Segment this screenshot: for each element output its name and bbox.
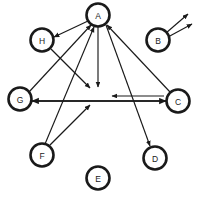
node-b[interactable]: B: [147, 29, 170, 52]
node-c-label: C: [175, 97, 181, 107]
node-f-label: F: [39, 151, 44, 161]
node-h[interactable]: H: [31, 29, 54, 52]
edge-b-out-upper: [166, 14, 188, 33]
node-d-label: D: [152, 154, 158, 164]
node-h-label: H: [39, 36, 45, 46]
node-e[interactable]: E: [87, 167, 110, 190]
edge-a-to-h: [54, 21, 88, 37]
node-g-label: G: [17, 95, 24, 105]
graph-diagram-canvas: ABCDEFGH: [0, 0, 197, 197]
node-b-label: B: [155, 36, 161, 46]
node-e-label: E: [95, 174, 101, 184]
node-d[interactable]: D: [144, 147, 167, 170]
edge-b-out-lower: [168, 24, 192, 37]
node-f[interactable]: F: [31, 144, 54, 167]
node-c[interactable]: C: [167, 90, 190, 113]
node-g[interactable]: G: [9, 88, 32, 111]
edge-a-to-d: [106, 25, 150, 146]
node-a-label: A: [95, 11, 101, 21]
edge-f-to-center: [50, 105, 90, 145]
node-a[interactable]: A: [87, 4, 110, 27]
graph-svg: ABCDEFGH: [0, 0, 197, 197]
